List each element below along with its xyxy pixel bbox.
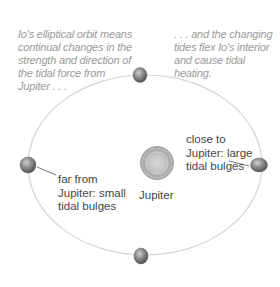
leader-line-far <box>37 167 56 175</box>
io-moon-far <box>20 157 36 173</box>
io-moon-bottom <box>134 248 148 264</box>
io-tidal-heating-diagram: Io's elliptical orbit means continual ch… <box>0 0 280 287</box>
caption-orbit-explanation: Io's elliptical orbit means continual ch… <box>18 28 136 93</box>
jupiter-planet <box>141 147 174 180</box>
label-close-to-jupiter: close to Jupiter: large tidal bulges <box>186 133 256 174</box>
label-jupiter: Jupiter <box>139 189 174 203</box>
label-far-from-jupiter: far from Jupiter: small tidal bulges <box>58 173 128 214</box>
caption-tidal-heating: . . . and the changing tides flex Io's i… <box>174 28 280 80</box>
